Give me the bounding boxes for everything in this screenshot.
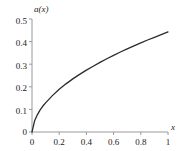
x-tick-label-0: 0 xyxy=(30,137,35,147)
data-series-curve xyxy=(32,32,168,132)
y-tick-label-5: 0.5 xyxy=(16,16,28,26)
chart-figure: 0 0.1 0.2 0.3 0.4 0.5 0 0.2 0.4 0.6 0.8 … xyxy=(0,0,180,151)
axis-lines xyxy=(32,19,168,132)
x-tick-label-1: 0.2 xyxy=(54,137,65,147)
x-axis-label: x xyxy=(170,122,175,132)
x-tick-label-4: 0.8 xyxy=(135,137,147,147)
plot-area: 0 0.1 0.2 0.3 0.4 0.5 0 0.2 0.4 0.6 0.8 … xyxy=(0,0,180,151)
y-axis-label: a(x) xyxy=(34,4,49,14)
x-tick-label-5: 1 xyxy=(166,137,171,147)
x-tick-label-3: 0.6 xyxy=(108,137,120,147)
y-tick-label-3: 0.3 xyxy=(16,61,28,71)
y-tick-label-1: 0.1 xyxy=(16,106,27,116)
y-tick-label-4: 0.4 xyxy=(16,38,28,48)
y-tick-label-2: 0.2 xyxy=(16,83,27,93)
x-tick-label-2: 0.4 xyxy=(81,137,93,147)
y-tick-label-0: 0 xyxy=(23,127,28,137)
